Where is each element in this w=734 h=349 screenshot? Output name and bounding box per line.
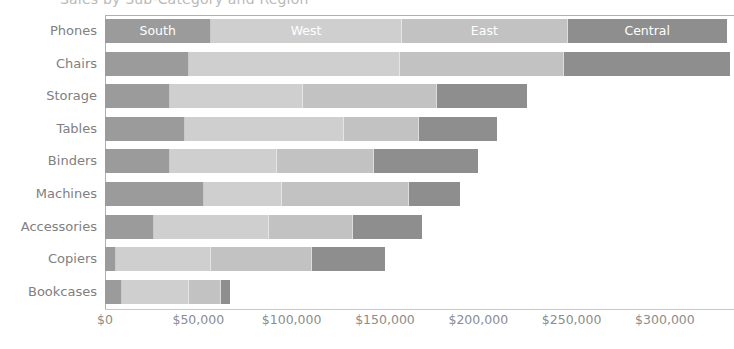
segment-label-south: South [105, 19, 210, 43]
segment-label-east: East [402, 19, 567, 43]
chart-title-cropped: Sales by Sub-Category and Region [0, 0, 734, 13]
stacked-bar-machines[interactable] [105, 182, 460, 206]
stacked-bar-bookcases[interactable] [105, 280, 230, 304]
stacked-bar-accessories[interactable] [105, 215, 422, 239]
plot-area: PhonesSouthWestEastCentralChairsStorageT… [105, 15, 734, 308]
bar-row: Bookcases [105, 280, 734, 304]
stacked-bar-tables[interactable] [105, 117, 497, 141]
bar-segment-central[interactable] [312, 247, 385, 271]
bar-row: Storage [105, 84, 734, 108]
category-label-tables: Tables [57, 117, 97, 141]
bar-row: Accessories [105, 215, 734, 239]
bar-segment-west[interactable] [154, 215, 270, 239]
bar-segment-east[interactable] [189, 280, 221, 304]
stacked-bar-storage[interactable] [105, 84, 527, 108]
bar-segment-west[interactable] [185, 117, 344, 141]
bar-segment-west[interactable] [122, 280, 189, 304]
bar-segment-central[interactable] [409, 182, 459, 206]
bar-segment-south[interactable] [105, 182, 204, 206]
bar-row: Copiers [105, 247, 734, 271]
bar-segment-west[interactable] [204, 182, 282, 206]
category-label-bookcases: Bookcases [28, 280, 97, 304]
bar-segment-east[interactable] [303, 84, 437, 108]
stacked-bar-chairs[interactable] [105, 52, 730, 76]
x-axis-line [105, 309, 734, 310]
bar-segment-east[interactable]: East [402, 19, 568, 43]
x-tick-300000: $300,000 [635, 312, 695, 327]
category-label-storage: Storage [46, 84, 97, 108]
x-tick-250000: $250,000 [542, 312, 602, 327]
x-tick-0: $0 [97, 312, 113, 327]
bar-segment-south[interactable] [105, 52, 189, 76]
category-label-copiers: Copiers [48, 247, 97, 271]
bar-segment-south[interactable] [105, 215, 154, 239]
chart-title: Sales by Sub-Category and Region [60, 0, 309, 7]
x-tick-200000: $200,000 [448, 312, 508, 327]
bar-segment-south[interactable] [105, 84, 170, 108]
stacked-bar-copiers[interactable] [105, 247, 385, 271]
bar-row: Chairs [105, 52, 734, 76]
bar-segment-east[interactable] [344, 117, 419, 141]
bar-segment-east[interactable] [277, 149, 374, 173]
bar-segment-central[interactable] [437, 84, 527, 108]
category-label-accessories: Accessories [21, 215, 97, 239]
segment-label-west: West [211, 19, 400, 43]
x-tick-50000: $50,000 [172, 312, 224, 327]
x-tick-150000: $150,000 [355, 312, 415, 327]
bar-row: PhonesSouthWestEastCentral [105, 19, 734, 43]
stacked-bar-phones[interactable]: SouthWestEastCentral [105, 19, 727, 43]
segment-label-central: Central [568, 19, 727, 43]
category-label-binders: Binders [48, 149, 97, 173]
bar-segment-west[interactable]: West [211, 19, 401, 43]
bar-segment-east[interactable] [211, 247, 312, 271]
bar-segment-west[interactable] [170, 149, 276, 173]
stacked-bar-binders[interactable] [105, 149, 478, 173]
category-label-chairs: Chairs [56, 52, 97, 76]
bar-segment-east[interactable] [269, 215, 353, 239]
bar-row: Binders [105, 149, 734, 173]
x-axis-tick-labels: $0$50,000$100,000$150,000$200,000$250,00… [0, 312, 734, 334]
bar-segment-south[interactable] [105, 149, 170, 173]
bar-segment-central[interactable] [374, 149, 479, 173]
stacked-bar-chart: Sales by Sub-Category and Region PhonesS… [0, 0, 734, 349]
bar-segment-south[interactable] [105, 247, 116, 271]
bar-segment-west[interactable] [116, 247, 211, 271]
bar-segment-east[interactable] [282, 182, 409, 206]
category-label-machines: Machines [36, 182, 97, 206]
x-tick-100000: $100,000 [262, 312, 322, 327]
bar-segment-west[interactable] [189, 52, 400, 76]
bar-row: Machines [105, 182, 734, 206]
bar-segment-central[interactable] [419, 117, 497, 141]
bar-segment-west[interactable] [170, 84, 303, 108]
bar-segment-south[interactable] [105, 280, 122, 304]
bar-segment-central[interactable] [564, 52, 730, 76]
bar-segment-central[interactable]: Central [568, 19, 727, 43]
bar-segment-central[interactable] [353, 215, 422, 239]
bar-segment-east[interactable] [400, 52, 564, 76]
bar-row: Tables [105, 117, 734, 141]
bar-segment-south[interactable] [105, 117, 185, 141]
bar-segment-south[interactable]: South [105, 19, 211, 43]
category-label-phones: Phones [50, 19, 97, 43]
bar-segment-central[interactable] [221, 280, 230, 304]
